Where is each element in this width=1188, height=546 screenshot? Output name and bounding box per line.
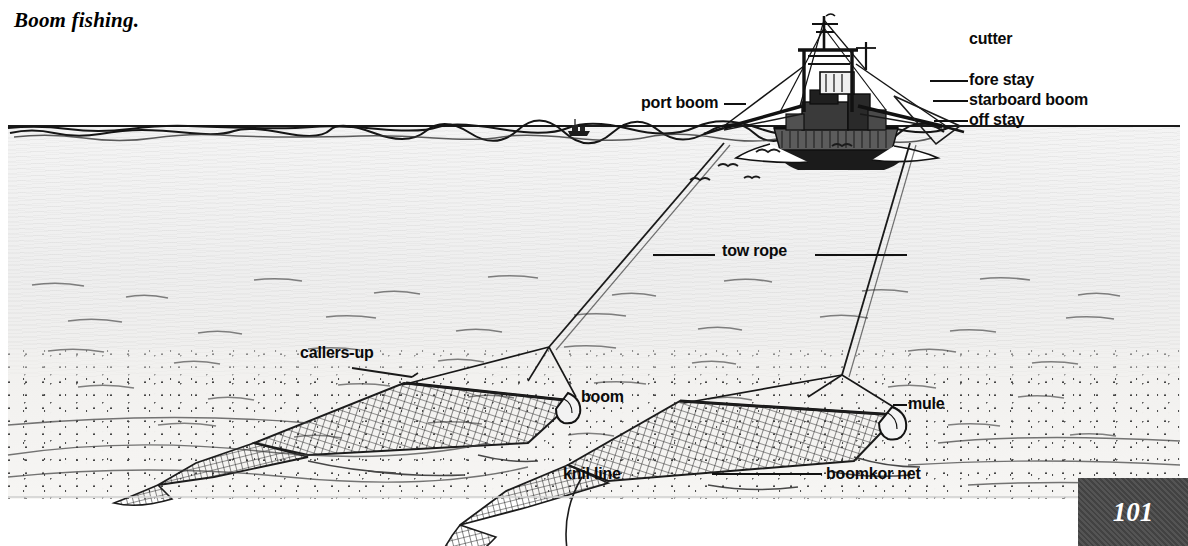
label-mule: mule [908,396,945,412]
label-callers-up: callers-up [300,345,374,361]
leader-port-boom [724,103,746,105]
leader-off-stay [934,120,968,122]
label-boomkor-net: boomkor net [826,466,921,482]
leader-fore-stay [930,80,968,82]
label-tow-rope: tow rope [722,243,787,259]
label-starboard-boom: starboard boom [969,92,1088,108]
leader-tow-rope-right [815,254,907,256]
label-cutter: cutter [969,31,1012,47]
label-knil-line: knil line [563,466,621,482]
page-number-badge: 101 [1078,478,1188,546]
leader-mule [893,404,907,406]
tow-rope-port [549,143,730,350]
label-port-boom: port boom [641,95,718,111]
cutter-vessel [704,14,964,170]
label-fore-stay: fore stay [969,72,1034,88]
tow-rope-starboard [842,143,916,377]
page-title: Boom fishing. [14,8,139,33]
label-boom: boom [581,389,624,405]
leader-tow-rope-left [653,254,715,256]
illustration-linework [8,125,1180,499]
page-number-text: 101 [1113,497,1154,528]
leader-starboard-boom [933,100,968,102]
label-off-stay: off stay [969,112,1024,128]
leader-boomkor-net [712,473,822,475]
page-canvas: Boom fishing. [0,0,1188,546]
boom-fishing-illustration [8,125,1180,499]
